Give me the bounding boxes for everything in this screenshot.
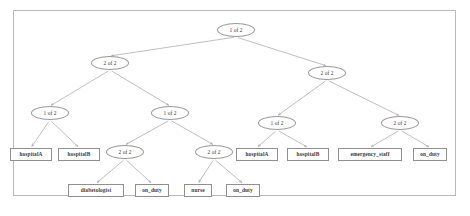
node-label: 2 of 2	[320, 70, 333, 76]
node-label: 2 of 2	[103, 60, 116, 66]
tree-diagram: 1 of 22 of 22 of 21 of 21 of 21 of 22 of…	[0, 0, 470, 216]
node-label: 1 of 2	[229, 27, 242, 33]
tree-node-box-n13: emergency_staff	[338, 148, 401, 161]
tree-node-box-n15: diabetologist	[68, 184, 124, 197]
node-label: diabetologist	[81, 187, 112, 193]
tree-node-box-n8: hospitalB	[58, 148, 100, 161]
node-label: 1 of 2	[270, 120, 283, 126]
tree-node-ellipse-n6: 2 of 2	[381, 116, 419, 130]
tree-node-ellipse-n1: 2 of 2	[91, 56, 129, 70]
tree-node-ellipse-n9: 2 of 2	[106, 145, 144, 159]
tree-node-ellipse-n5: 1 of 2	[258, 116, 296, 130]
node-label: on_duty	[233, 187, 253, 193]
diagram-border	[13, 10, 456, 196]
node-label: 2 of 2	[393, 120, 406, 126]
node-label: 2 of 2	[207, 149, 220, 155]
tree-node-box-n14: on_duty	[413, 148, 448, 161]
node-label: hospitalB	[297, 151, 320, 157]
node-label: nurse	[191, 187, 204, 193]
tree-node-box-n12: hospitalB	[287, 148, 329, 161]
node-label: on_duty	[142, 187, 162, 193]
tree-node-ellipse-n10: 2 of 2	[195, 145, 233, 159]
tree-node-ellipse-n2: 2 of 2	[308, 66, 346, 80]
node-label: 2 of 2	[118, 149, 131, 155]
node-label: 1 of 2	[163, 110, 176, 116]
tree-node-ellipse-n4: 1 of 2	[151, 106, 189, 120]
node-label: 1 of 2	[43, 110, 56, 116]
node-label: hospitalA	[245, 151, 268, 157]
tree-node-box-n16: on_duty	[135, 184, 170, 197]
node-label: hospitalA	[19, 151, 42, 157]
node-label: hospitalB	[68, 151, 91, 157]
tree-node-box-n18: on_duty	[226, 184, 261, 197]
tree-node-box-n11: hospitalA	[236, 148, 278, 161]
tree-node-box-n17: nurse	[184, 184, 212, 197]
node-label: on_duty	[420, 151, 440, 157]
node-label: emergency_staff	[350, 151, 389, 157]
tree-node-box-n7: hospitalA	[10, 148, 52, 161]
tree-node-ellipse-n0: 1 of 2	[217, 23, 255, 37]
tree-node-ellipse-n3: 1 of 2	[31, 106, 69, 120]
